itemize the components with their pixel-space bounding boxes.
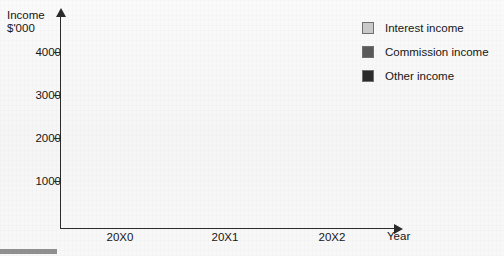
legend-item-other-income[interactable]: Other income — [362, 64, 504, 88]
x-axis-tick-label-20X2: 20X2 — [308, 231, 356, 244]
x-axis-title: Year — [387, 230, 410, 243]
y-axis-tick-mark-4000 — [54, 52, 61, 53]
y-axis-tick-mark-1000 — [54, 181, 61, 182]
legend-item-label: Other income — [385, 70, 454, 83]
chart-legend: Interest income Commission income Other … — [362, 16, 504, 88]
x-axis-tick-label-20X1: 20X1 — [201, 231, 249, 244]
legend-item-interest-income[interactable]: Interest income — [362, 16, 504, 40]
legend-swatch-icon — [362, 70, 374, 82]
legend-item-commission-income[interactable]: Commission income — [362, 40, 504, 64]
y-axis-title-line-2: $'000 — [7, 22, 45, 35]
legend-swatch-icon — [362, 22, 374, 34]
x-axis-line — [60, 228, 396, 229]
y-axis-tick-3000: 3000 — [0, 89, 61, 101]
y-axis-tick-mark-3000 — [54, 95, 61, 96]
y-axis-title: Income $'000 — [7, 9, 45, 35]
legend-swatch-icon — [362, 46, 374, 58]
bottom-left-rule — [0, 249, 57, 254]
y-axis-tick-2000: 2000 — [0, 132, 61, 144]
y-axis-tick-1000: 1000 — [0, 175, 61, 187]
x-axis-tick-label-20X0: 20X0 — [96, 231, 144, 244]
legend-item-label: Interest income — [385, 22, 464, 35]
y-axis-title-line-1: Income — [7, 9, 45, 22]
y-axis-tick-4000: 4000 — [0, 46, 61, 58]
legend-item-label: Commission income — [385, 46, 489, 59]
chart-screenshot: Income $'000 4000 3000 2000 1000 20X0 20… — [0, 0, 504, 256]
y-axis-tick-mark-2000 — [54, 138, 61, 139]
plot-area — [61, 16, 396, 228]
